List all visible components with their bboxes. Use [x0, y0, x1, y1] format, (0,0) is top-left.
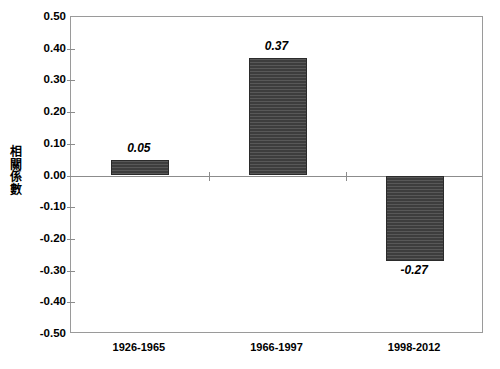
bar-chart: 相 關 係 數 0.500.400.300.200.100.00-0.10-0.… [0, 0, 500, 369]
y-axis-tick-label: -0.50 [22, 327, 66, 339]
y-axis-tick-mark [67, 302, 75, 303]
bar-value-label: -0.27 [400, 263, 427, 277]
y-axis-tick-label: 0.00 [22, 169, 66, 181]
x-axis-category-label: 1926-1965 [113, 341, 166, 353]
y-axis-tick-mark [67, 80, 75, 81]
x-axis-tick-mark [346, 172, 347, 181]
bar-value-label: 0.05 [127, 141, 150, 155]
y-axis-tick-labels: 0.500.400.300.200.100.00-0.10-0.20-0.30-… [22, 0, 66, 369]
y-axis-tick-mark [67, 144, 75, 145]
y-axis-tick-mark [67, 207, 75, 208]
y-axis-tick-mark [67, 271, 75, 272]
y-axis-tick-mark [67, 239, 75, 240]
bar [111, 160, 169, 176]
y-axis-tick-label: 0.40 [22, 42, 66, 54]
y-axis-tick-mark [67, 49, 75, 50]
y-axis-tick-label: -0.30 [22, 264, 66, 276]
y-axis-tick-label: -0.10 [22, 200, 66, 212]
y-axis-tick-mark [67, 112, 75, 113]
x-axis-category-label: 1998-2012 [388, 341, 441, 353]
bar [386, 176, 444, 262]
plot-area [70, 16, 483, 333]
y-axis-tick-label: 0.50 [22, 10, 66, 22]
bar-value-label: 0.37 [265, 39, 288, 53]
y-axis-tick-mark [67, 176, 75, 177]
y-axis-tick-label: -0.40 [22, 295, 66, 307]
x-axis-tick-mark [209, 172, 210, 181]
bar [249, 58, 307, 175]
y-axis-tick-label: -0.20 [22, 232, 66, 244]
y-axis-tick-label: 0.10 [22, 137, 66, 149]
y-axis-tick-label: 0.20 [22, 105, 66, 117]
x-axis-category-label: 1966-1997 [250, 341, 303, 353]
y-axis-tick-label: 0.30 [22, 73, 66, 85]
